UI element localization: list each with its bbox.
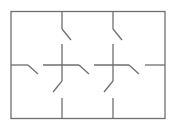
door-leaf-door-top-left <box>62 29 71 40</box>
interior-walls <box>11 12 165 119</box>
door-leaf-door-left <box>28 65 38 74</box>
door-leaf-door-bottom-left <box>53 81 62 92</box>
door-leaf-door-center-right <box>129 65 139 74</box>
outer-wall <box>11 12 165 119</box>
door-leaf-door-bottom-right <box>104 81 113 92</box>
door-leaf-door-top-right <box>113 29 122 40</box>
door-leaves <box>28 29 139 92</box>
floor-plan <box>0 0 178 127</box>
door-leaf-door-center-left <box>79 65 89 74</box>
